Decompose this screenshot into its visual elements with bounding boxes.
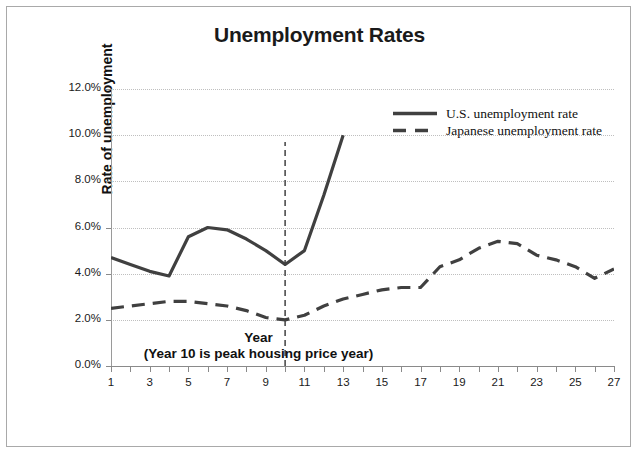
x-axis-tick-label: 27 [599,376,629,388]
plot-area: Rate of unemployment 0.0%2.0%4.0%6.0%8.0… [111,89,614,366]
x-axis-tick-mark [556,366,557,372]
chart-frame: Unemployment Rates Rate of unemployment … [6,6,631,447]
x-axis-tick-mark [498,366,499,372]
x-axis-tick-mark [401,366,402,372]
x-axis-tick-label: 19 [444,376,474,388]
x-axis-tick-mark [304,366,305,372]
x-axis-tick-mark [208,366,209,372]
x-axis-tick-label: 5 [173,376,203,388]
x-axis-tick-mark [227,366,228,372]
x-axis-tick-label: 3 [135,376,165,388]
y-axis-tick-label: 12.0% [43,81,101,93]
x-axis-tick-label: 25 [560,376,590,388]
x-axis-tick-label: 11 [289,376,319,388]
legend-label-us: U.S. unemployment rate [446,106,578,122]
x-axis-tick-mark [382,366,383,372]
series-line [111,135,343,276]
legend-label-japan: Japanese unemployment rate [446,123,602,139]
x-axis-tick-mark [459,366,460,372]
x-axis-tick-label: 7 [212,376,242,388]
x-axis-tick-mark [285,366,286,372]
x-axis-tick-mark [111,366,112,372]
x-axis-tick-mark [537,366,538,372]
data-series-group [111,135,614,320]
x-axis-tick-label: 9 [251,376,281,388]
series-line [111,241,614,319]
x-axis-tick-mark [266,366,267,372]
y-axis-tick-label: 8.0% [43,173,101,185]
x-axis-tick-mark [517,366,518,372]
legend-item-us: U.S. unemployment rate [391,105,602,122]
x-axis-tick-label: 1 [96,376,126,388]
x-axis-tick-label: 15 [367,376,397,388]
legend-swatch-solid-icon [391,108,439,119]
chart-legend: U.S. unemployment rate Japanese unemploy… [391,105,602,139]
x-axis-tick-mark [246,366,247,372]
x-axis-tick-label: 23 [522,376,552,388]
x-axis-tick-mark [575,366,576,372]
x-axis-subtitle: (Year 10 is peak housing price year) [0,346,570,361]
legend-item-japan: Japanese unemployment rate [391,122,602,139]
x-axis-tick-mark [169,366,170,372]
legend-swatch-dashed-icon [391,125,439,136]
x-axis-tick-mark [343,366,344,372]
x-axis-title: Year [7,329,510,346]
x-axis-tick-mark [614,366,615,372]
x-axis-tick-label: 17 [406,376,436,388]
x-axis-tick-mark [363,366,364,372]
x-axis-tick-mark [188,366,189,372]
y-axis-tick-label: 2.0% [43,312,101,324]
x-axis-tick-mark [440,366,441,372]
x-axis-tick-mark [150,366,151,372]
y-axis-tick-label: 6.0% [43,220,101,232]
y-axis-tick-label: 4.0% [43,266,101,278]
x-axis-tick-label: 21 [483,376,513,388]
x-axis-tick-mark [324,366,325,372]
x-axis-tick-mark [130,366,131,372]
x-axis-tick-mark [479,366,480,372]
x-axis-tick-label: 13 [328,376,358,388]
y-axis-tick-label: 10.0% [43,127,101,139]
x-axis-tick-mark [421,366,422,372]
x-axis-tick-mark [595,366,596,372]
